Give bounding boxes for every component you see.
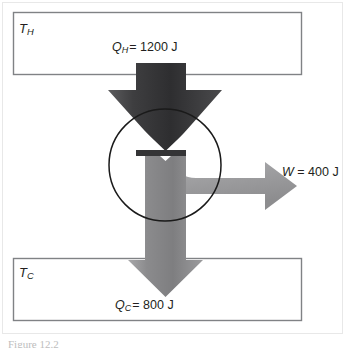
heat-in-subscript: H <box>122 45 129 55</box>
heat-in-value: 1200 J <box>140 40 178 54</box>
heat-in-symbol: Q <box>112 40 122 54</box>
heat-out-symbol: Q <box>115 298 125 312</box>
work-symbol: W <box>282 165 294 179</box>
heat-out-subscript: C <box>125 303 132 313</box>
cold-reservoir-subscript: C <box>27 271 34 281</box>
heat-out-equals: = <box>132 298 139 312</box>
work-label: W = 400 J <box>282 166 339 179</box>
hot-reservoir-label: TH <box>19 22 34 37</box>
heat-out-value: 800 J <box>143 298 174 312</box>
hot-reservoir-subscript: H <box>27 27 34 37</box>
heat-in-arrow <box>108 63 222 161</box>
figure-caption: Figure 12.2 <box>8 338 59 348</box>
figure-container: TH TC QH = 1200 J QC = 800 J W = 400 J F… <box>0 0 345 348</box>
work-equals: = <box>297 165 304 179</box>
heat-out-label: QC = 800 J <box>115 299 174 313</box>
hot-reservoir-symbol: T <box>19 21 27 36</box>
dark-shaft-overlap <box>136 150 186 156</box>
work-value: 400 J <box>308 165 339 179</box>
heat-in-label: QH = 1200 J <box>112 41 178 55</box>
cold-reservoir-label: TC <box>19 266 34 281</box>
heat-in-equals: = <box>129 40 136 54</box>
cold-reservoir-symbol: T <box>19 265 27 280</box>
